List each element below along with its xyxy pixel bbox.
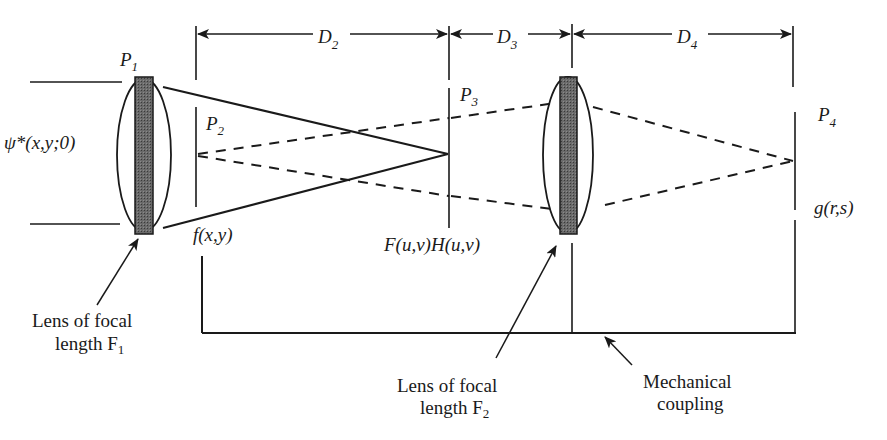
dimension-lines <box>196 24 793 87</box>
dashed-rays-2 <box>593 107 793 205</box>
coupling-caption: Mechanical coupling <box>643 371 732 414</box>
plane-p1-label: P1 <box>119 49 138 74</box>
lens-1-caption-line2: length F1 <box>55 333 124 357</box>
coupling-pointer <box>605 337 632 365</box>
lens-2-pointer <box>496 246 556 358</box>
dashed-ray-lower-seg2 <box>451 196 552 209</box>
d3-label: D3 <box>496 26 518 52</box>
input-beam <box>30 82 122 224</box>
mechanical-coupling-frame <box>202 256 796 333</box>
input-field-label: ψ*(x,y;0) <box>4 132 75 154</box>
lens-1 <box>117 77 171 234</box>
lens-2-caption-line1: Lens of focal <box>397 375 497 396</box>
annotation-arrows <box>97 239 632 365</box>
dashed-ray-upper-seg2 <box>451 103 556 118</box>
output-label: g(r,s) <box>814 197 854 219</box>
dimension-labels: D2 D3 D4 <box>317 26 698 52</box>
lens-1-plate <box>135 77 153 234</box>
lens-2-plate <box>560 77 577 234</box>
d4-label: D4 <box>676 26 698 52</box>
lens-2-caption: Lens of focal length F2 <box>397 375 497 421</box>
plane-p4-label: P4 <box>817 104 837 130</box>
lens-1-pointer <box>97 239 138 305</box>
lens-1-caption-line1: Lens of focal <box>32 310 132 331</box>
object-label: f(x,y) <box>193 224 233 246</box>
dashed-ray-upper-seg1 <box>198 118 449 154</box>
fourier-plane-label: F(u,v)H(u,v) <box>383 234 480 256</box>
dashed-ray-lower-seg3 <box>605 161 793 205</box>
dashed-ray-upper-seg3 <box>593 107 793 161</box>
coupling-caption-line2: coupling <box>657 393 724 414</box>
coupling-caption-line1: Mechanical <box>643 371 732 392</box>
lens-2 <box>543 77 593 333</box>
d2-label: D2 <box>317 26 339 52</box>
plane-p3-label: P3 <box>459 84 479 109</box>
lens-1-caption: Lens of focal length F1 <box>32 310 132 357</box>
lens-2-caption-line2: length F2 <box>420 397 489 421</box>
dashed-ray-lower-seg1 <box>198 156 449 196</box>
plane-p2-label: P2 <box>205 113 225 138</box>
dashed-rays-1 <box>198 103 556 209</box>
optical-system-diagram: D2 D3 D4 ψ*(x,y;0) P1 P2 f(x,y) P3 F(u,v… <box>0 0 887 440</box>
ray-bottom <box>163 154 448 228</box>
